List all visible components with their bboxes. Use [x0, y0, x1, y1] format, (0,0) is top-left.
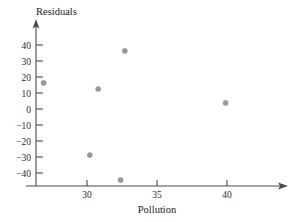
x-axis-tick-labels: 30 35 40	[82, 190, 232, 200]
y-tick-label-0: 0	[26, 105, 31, 115]
x-tick-label-30: 30	[82, 190, 92, 200]
y-tick-label-30: 30	[22, 57, 32, 67]
x-axis-ticks	[87, 180, 227, 186]
data-point	[87, 152, 92, 157]
data-point	[122, 48, 127, 53]
x-tick-label-35: 35	[152, 190, 162, 200]
y-tick-label-10: 10	[22, 89, 32, 99]
scatter-plot: 40 30 20 10 0 −10 −20 −30 −40 30 35 40 R…	[0, 0, 301, 222]
data-point	[118, 177, 123, 182]
y-axis-ticks	[36, 45, 43, 173]
y-tick-label-neg30: −30	[16, 153, 31, 163]
y-axis-tick-labels: 40 30 20 10 0 −10 −20 −30 −40	[16, 41, 31, 179]
y-tick-label-neg10: −10	[16, 121, 31, 131]
plot-axes	[26, 19, 288, 189]
y-tick-label-neg40: −40	[16, 169, 31, 179]
y-tick-label-neg20: −20	[16, 137, 31, 147]
x-axis-title: Pollution	[138, 204, 177, 215]
y-tick-label-40: 40	[22, 41, 32, 51]
y-axis-title: Residuals	[36, 6, 77, 17]
data-point	[223, 100, 228, 105]
x-tick-label-40: 40	[222, 190, 232, 200]
data-point	[96, 86, 101, 91]
data-point	[41, 80, 46, 85]
data-point-group	[41, 48, 228, 182]
y-tick-label-20: 20	[22, 73, 32, 83]
